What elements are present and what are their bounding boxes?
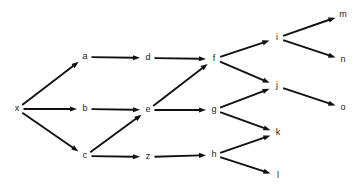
graph-edge-c-to-e — [90, 115, 141, 152]
graph-node-n: n — [340, 54, 345, 64]
arrowhead-icon — [133, 107, 140, 112]
edge-shaft — [283, 88, 330, 104]
edges-layer — [22, 17, 335, 173]
edge-shaft — [22, 113, 73, 148]
graph-node-a: a — [82, 51, 87, 61]
graph-edge-f-to-i — [220, 40, 269, 57]
graph-edge-b-to-e — [92, 107, 141, 112]
edge-shaft — [92, 109, 135, 110]
graph-node-l: l — [277, 170, 279, 180]
arrowhead-icon — [133, 154, 140, 159]
graph-node-h: h — [211, 149, 216, 159]
edge-shaft — [220, 157, 265, 172]
arrowhead-icon — [199, 56, 206, 61]
graph-node-k: k — [276, 127, 281, 137]
edge-shaft — [92, 156, 135, 157]
arrowhead-icon — [199, 107, 206, 112]
graph-edge-i-to-n — [283, 40, 335, 58]
graph-edge-e-to-g — [155, 107, 207, 112]
graph-edge-x-to-c — [22, 113, 78, 152]
graph-node-d: d — [145, 52, 150, 62]
graph-node-f: f — [213, 53, 216, 63]
graph-edge-j-to-o — [283, 88, 335, 106]
edge-shaft — [220, 91, 264, 108]
edge-shaft — [283, 40, 330, 56]
graph-node-z: z — [146, 151, 151, 161]
edge-shaft — [220, 137, 265, 152]
graph-canvas: xabcdezfghijklmno — [0, 0, 362, 190]
graph-node-b: b — [82, 103, 87, 113]
graph-edge-i-to-m — [283, 17, 335, 35]
graph-edge-c-to-z — [92, 154, 141, 159]
graph-edge-a-to-d — [92, 55, 141, 60]
edge-shaft — [155, 155, 201, 156]
arrowhead-icon — [263, 135, 270, 140]
edge-shaft — [22, 65, 74, 105]
arrowhead-icon — [262, 78, 269, 83]
graph-edge-d-to-f — [155, 56, 207, 61]
edge-shaft — [220, 112, 265, 128]
arrowhead-icon — [70, 106, 77, 111]
arrowhead-icon — [263, 125, 270, 130]
graph-node-m: m — [339, 9, 347, 19]
arrowhead-icon — [328, 53, 335, 58]
graph-edge-x-to-b — [24, 106, 78, 111]
graph-node-o: o — [340, 102, 345, 112]
graph-node-g: g — [211, 104, 216, 114]
graph-edge-e-to-f — [153, 64, 208, 106]
arrowhead-icon — [262, 89, 269, 94]
graph-node-j: j — [275, 80, 278, 90]
graph-edge-g-to-k — [220, 112, 270, 130]
edge-shaft — [283, 20, 330, 36]
graph-edge-h-to-l — [220, 157, 270, 174]
arrowhead-icon — [328, 101, 335, 106]
edge-shaft — [90, 118, 137, 152]
edge-shaft — [220, 62, 264, 81]
graph-node-i: i — [276, 32, 278, 42]
arrowhead-icon — [328, 17, 335, 22]
graph-diagram: xabcdezfghijklmno — [0, 0, 362, 190]
nodes-layer: xabcdezfghijklmno — [15, 9, 347, 180]
graph-edge-x-to-a — [22, 62, 78, 105]
edge-shaft — [153, 67, 203, 106]
arrowhead-icon — [262, 40, 269, 45]
graph-edge-g-to-j — [220, 89, 269, 108]
edge-shaft — [155, 58, 201, 59]
graph-node-x: x — [15, 103, 20, 113]
arrowhead-icon — [199, 153, 206, 158]
arrowhead-icon — [133, 55, 140, 60]
graph-edge-z-to-h — [155, 153, 207, 158]
arrowhead-icon — [263, 169, 270, 174]
graph-edge-h-to-k — [220, 135, 270, 152]
graph-node-c: c — [83, 150, 88, 160]
graph-node-e: e — [145, 104, 150, 114]
edge-shaft — [220, 42, 264, 57]
graph-edge-f-to-j — [220, 62, 270, 83]
edge-shaft — [92, 57, 135, 58]
